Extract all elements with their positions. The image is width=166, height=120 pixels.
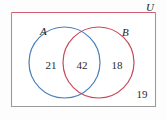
count-outside-sets: 19 bbox=[134, 89, 150, 100]
count-a-only: 21 bbox=[42, 60, 60, 71]
venn-diagram-figure: U A B 21 42 18 19 bbox=[0, 0, 166, 120]
count-intersection: 42 bbox=[73, 60, 91, 71]
set-b-label: B bbox=[122, 27, 129, 38]
count-b-only: 18 bbox=[108, 60, 126, 71]
set-a-label: A bbox=[40, 26, 47, 37]
universe-label: U bbox=[146, 2, 154, 13]
